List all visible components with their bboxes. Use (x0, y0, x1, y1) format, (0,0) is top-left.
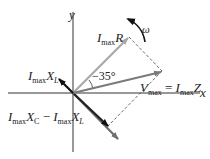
label-xc-b-sub: max (58, 117, 72, 126)
label-imax-r: ImaxR (97, 31, 123, 47)
y-axis-label: y (69, 8, 75, 21)
label-xc-a-tail: X (26, 109, 34, 124)
label-imax-xc-minus-xl: ImaxXC − ImaxXL (8, 110, 84, 126)
label-xc-a-tail-sub: C (34, 117, 39, 126)
label-xc-minus: − (43, 109, 50, 124)
label-imax-xl-sub: max (32, 76, 46, 85)
label-imax-xl-tail-sub: L (54, 76, 58, 85)
label-vmax-equals: = (165, 80, 172, 95)
phasor-imax-xl (59, 79, 73, 93)
label-xc-b-tail-sub: L (79, 117, 83, 126)
dashed-line-r-to-v (129, 37, 162, 71)
omega-label: ω (142, 24, 150, 35)
label-vmax-sub: max (148, 88, 162, 97)
label-imax-xl: ImaxXL (28, 69, 59, 85)
label-imax-r-sub: max (101, 38, 115, 47)
label-vmax-equation: Vmax = ImaxZ (140, 81, 201, 97)
label-imax-r-tail: R (115, 30, 123, 45)
label-xc-a-sub: max (12, 117, 26, 126)
label-vmax-rhs-tail: Z (194, 80, 201, 95)
angle-label: −35° (92, 70, 116, 82)
label-vmax-rhs-sub: max (180, 88, 194, 97)
label-imax-xl-tail: X (46, 68, 54, 83)
label-vmax-main: V (140, 80, 148, 95)
